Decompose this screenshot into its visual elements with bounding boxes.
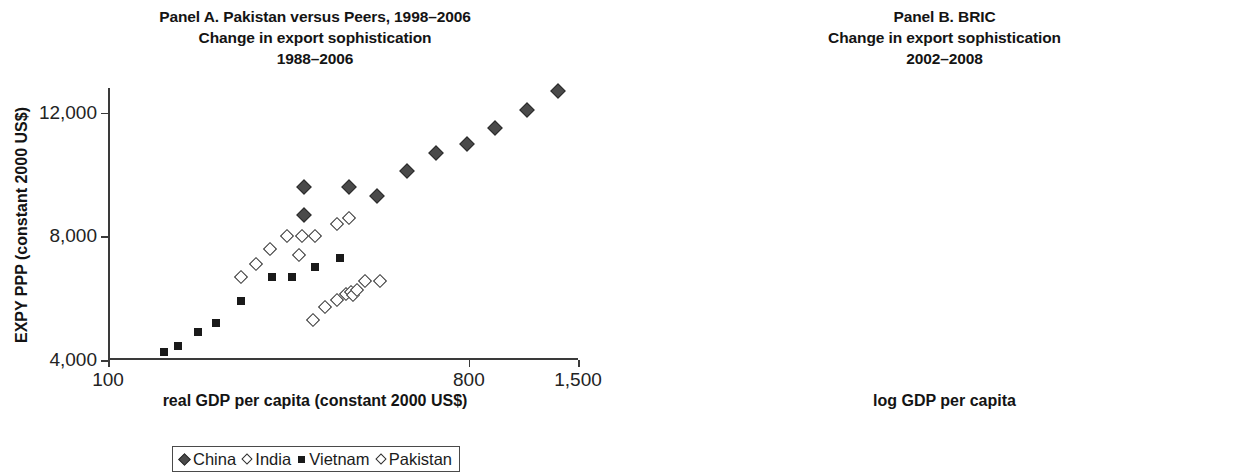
panel-b-title-line-2: Change in export sophistication: [630, 27, 1259, 48]
panel-a-title-line-3: 1988–2006: [0, 48, 630, 69]
data-point-vietnam: [194, 328, 202, 336]
y-tick-label: 4,000: [49, 349, 97, 371]
figure-root: Panel A. Pakistan versus Peers, 1998–200…: [0, 0, 1259, 472]
legend-item-label: India: [255, 450, 291, 469]
legend-marker-icon: [242, 453, 253, 464]
x-tick: [578, 360, 580, 367]
legend-item-pakistan: Pakistan: [377, 450, 452, 469]
data-point-india: [292, 248, 306, 262]
y-tick: [101, 236, 108, 238]
data-point-china: [399, 164, 415, 180]
data-point-india: [249, 257, 263, 271]
panel-a-legend: ChinaIndiaVietnamPakistan: [172, 446, 460, 472]
legend-item-india: India: [243, 450, 291, 469]
panel-a-title: Panel A. Pakistan versus Peers, 1998–200…: [0, 6, 630, 69]
data-point-vietnam: [311, 263, 319, 271]
legend-item-label: China: [193, 450, 236, 469]
legend-item-vietnam: Vietnam: [298, 450, 369, 469]
data-point-china: [459, 136, 475, 152]
data-point-pakistan: [305, 313, 319, 327]
data-point-vietnam: [268, 273, 276, 281]
data-point-vietnam: [288, 273, 296, 281]
x-tick-label: 1,500: [554, 369, 602, 391]
x-tick: [108, 360, 110, 367]
data-point-china: [551, 83, 567, 99]
data-point-china: [487, 120, 503, 136]
data-point-india: [280, 229, 294, 243]
y-tick-label: 12,000: [39, 102, 97, 124]
data-point-india: [263, 242, 277, 256]
data-point-pakistan: [318, 300, 332, 314]
legend-item-label: Vietnam: [309, 450, 369, 469]
panel-b-title-line-1: Panel B. BRIC: [630, 6, 1259, 27]
legend-marker-icon: [375, 453, 386, 464]
data-point-vietnam: [212, 319, 220, 327]
panel-b: Panel B. BRIC Change in export sophistic…: [630, 0, 1259, 472]
panel-b-title-line-3: 2002–2008: [630, 48, 1259, 69]
legend-marker-icon: [298, 456, 305, 463]
y-tick-label: 8,000: [49, 225, 97, 247]
panel-a-title-line-1: Panel A. Pakistan versus Peers, 1998–200…: [0, 6, 630, 27]
legend-item-china: China: [180, 450, 236, 469]
data-point-vietnam: [336, 254, 344, 262]
data-point-india: [308, 229, 322, 243]
data-point-china: [341, 179, 357, 195]
data-point-china: [297, 207, 313, 223]
panel-a-y-axis: [108, 88, 110, 360]
y-tick: [101, 113, 108, 115]
data-point-vietnam: [174, 342, 182, 350]
data-point-vietnam: [160, 348, 168, 356]
data-point-china: [520, 102, 536, 118]
panel-b-x-axis-label: log GDP per capita: [630, 392, 1259, 410]
x-tick-label: 100: [92, 369, 124, 391]
panel-b-title: Panel B. BRIC Change in export sophistic…: [630, 6, 1259, 69]
legend-marker-icon: [178, 453, 191, 466]
panel-a-x-axis: [108, 358, 578, 360]
x-tick: [469, 360, 471, 367]
data-point-vietnam: [237, 297, 245, 305]
panel-a-y-axis-label: EXPY PPP (constant 2000 US$): [13, 85, 31, 365]
legend-item-label: Pakistan: [389, 450, 452, 469]
panel-a-x-axis-label: real GDP per capita (constant 2000 US$): [0, 392, 630, 410]
panel-a: Panel A. Pakistan versus Peers, 1998–200…: [0, 0, 630, 472]
data-point-china: [428, 145, 444, 161]
data-point-pakistan: [373, 274, 387, 288]
y-tick: [101, 360, 108, 362]
x-tick-label: 800: [453, 369, 485, 391]
data-point-china: [297, 179, 313, 195]
data-point-china: [369, 188, 385, 204]
data-point-india: [294, 229, 308, 243]
data-point-india: [234, 269, 248, 283]
panel-a-title-line-2: Change in export sophistication: [0, 27, 630, 48]
panel-a-plot-area: 4,0008,00012,0001008001,500: [108, 88, 578, 360]
